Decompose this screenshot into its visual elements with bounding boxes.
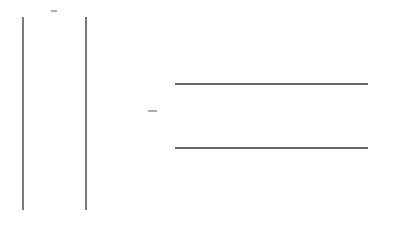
diagram-canvas bbox=[0, 0, 393, 238]
capacitor-electric-field-figure bbox=[23, 11, 86, 210]
solenoid-magnetic-field-figure bbox=[148, 84, 368, 148]
